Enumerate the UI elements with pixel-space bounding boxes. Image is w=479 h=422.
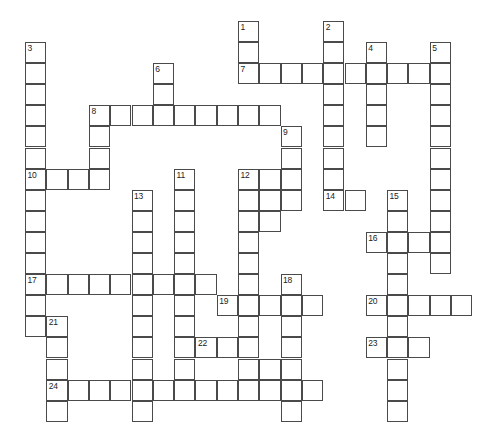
crossword-cell[interactable]	[408, 63, 429, 84]
crossword-cell[interactable]	[281, 401, 302, 422]
crossword-cell[interactable]	[46, 380, 67, 401]
crossword-cell[interactable]	[132, 316, 153, 337]
crossword-cell[interactable]	[281, 316, 302, 337]
crossword-cell[interactable]	[387, 316, 408, 337]
crossword-cell[interactable]	[25, 105, 46, 126]
crossword-cell[interactable]	[153, 84, 174, 105]
crossword-cell[interactable]	[153, 380, 174, 401]
crossword-cell[interactable]	[259, 380, 280, 401]
crossword-cell[interactable]	[153, 274, 174, 295]
crossword-cell[interactable]	[259, 211, 280, 232]
crossword-cell[interactable]	[430, 169, 451, 190]
crossword-cell[interactable]	[46, 169, 67, 190]
crossword-cell[interactable]	[46, 359, 67, 380]
crossword-cell[interactable]	[25, 63, 46, 84]
crossword-cell[interactable]	[25, 295, 46, 316]
crossword-cell[interactable]	[451, 295, 472, 316]
crossword-cell[interactable]	[238, 274, 259, 295]
crossword-cell[interactable]	[174, 105, 195, 126]
crossword-cell[interactable]	[174, 253, 195, 274]
crossword-cell[interactable]	[281, 359, 302, 380]
crossword-grid[interactable]: 123456789101112131415161718192021222324	[0, 0, 479, 422]
crossword-cell[interactable]	[408, 295, 429, 316]
crossword-cell[interactable]	[238, 359, 259, 380]
crossword-cell[interactable]	[238, 63, 259, 84]
crossword-cell[interactable]	[302, 63, 323, 84]
crossword-cell[interactable]	[132, 359, 153, 380]
crossword-cell[interactable]	[366, 63, 387, 84]
crossword-cell[interactable]	[281, 274, 302, 295]
crossword-cell[interactable]	[323, 21, 344, 42]
crossword-cell[interactable]	[68, 169, 89, 190]
crossword-cell[interactable]	[195, 105, 216, 126]
crossword-cell[interactable]	[46, 337, 67, 358]
crossword-cell[interactable]	[387, 380, 408, 401]
crossword-cell[interactable]	[174, 337, 195, 358]
crossword-cell[interactable]	[430, 42, 451, 63]
crossword-cell[interactable]	[281, 337, 302, 358]
crossword-cell[interactable]	[387, 211, 408, 232]
crossword-cell[interactable]	[387, 190, 408, 211]
crossword-cell[interactable]	[323, 105, 344, 126]
crossword-cell[interactable]	[430, 232, 451, 253]
crossword-cell[interactable]	[132, 211, 153, 232]
crossword-cell[interactable]	[387, 63, 408, 84]
crossword-cell[interactable]	[281, 63, 302, 84]
crossword-cell[interactable]	[25, 316, 46, 337]
crossword-cell[interactable]	[238, 21, 259, 42]
crossword-cell[interactable]	[132, 401, 153, 422]
crossword-cell[interactable]	[430, 63, 451, 84]
crossword-cell[interactable]	[89, 148, 110, 169]
crossword-cell[interactable]	[323, 169, 344, 190]
crossword-cell[interactable]	[366, 232, 387, 253]
crossword-cell[interactable]	[25, 190, 46, 211]
crossword-cell[interactable]	[132, 337, 153, 358]
crossword-cell[interactable]	[110, 380, 131, 401]
crossword-cell[interactable]	[302, 380, 323, 401]
crossword-cell[interactable]	[68, 274, 89, 295]
crossword-cell[interactable]	[366, 42, 387, 63]
crossword-cell[interactable]	[323, 84, 344, 105]
crossword-cell[interactable]	[46, 274, 67, 295]
crossword-cell[interactable]	[174, 316, 195, 337]
crossword-cell[interactable]	[25, 148, 46, 169]
crossword-cell[interactable]	[259, 63, 280, 84]
crossword-cell[interactable]	[366, 126, 387, 147]
crossword-cell[interactable]	[110, 105, 131, 126]
crossword-cell[interactable]	[281, 148, 302, 169]
crossword-cell[interactable]	[153, 105, 174, 126]
crossword-cell[interactable]	[25, 42, 46, 63]
crossword-cell[interactable]	[153, 63, 174, 84]
crossword-cell[interactable]	[430, 105, 451, 126]
crossword-cell[interactable]	[408, 337, 429, 358]
crossword-cell[interactable]	[174, 211, 195, 232]
crossword-cell[interactable]	[323, 148, 344, 169]
crossword-cell[interactable]	[132, 274, 153, 295]
crossword-cell[interactable]	[217, 337, 238, 358]
crossword-cell[interactable]	[25, 84, 46, 105]
crossword-cell[interactable]	[366, 105, 387, 126]
crossword-cell[interactable]	[259, 359, 280, 380]
crossword-cell[interactable]	[174, 190, 195, 211]
crossword-cell[interactable]	[323, 126, 344, 147]
crossword-cell[interactable]	[174, 169, 195, 190]
crossword-cell[interactable]	[366, 295, 387, 316]
crossword-cell[interactable]	[25, 253, 46, 274]
crossword-cell[interactable]	[174, 380, 195, 401]
crossword-cell[interactable]	[387, 232, 408, 253]
crossword-cell[interactable]	[195, 380, 216, 401]
crossword-cell[interactable]	[366, 84, 387, 105]
crossword-cell[interactable]	[46, 401, 67, 422]
crossword-cell[interactable]	[89, 105, 110, 126]
crossword-cell[interactable]	[174, 359, 195, 380]
crossword-cell[interactable]	[259, 190, 280, 211]
crossword-cell[interactable]	[430, 211, 451, 232]
crossword-cell[interactable]	[238, 105, 259, 126]
crossword-cell[interactable]	[259, 105, 280, 126]
crossword-cell[interactable]	[132, 295, 153, 316]
crossword-cell[interactable]	[238, 316, 259, 337]
crossword-cell[interactable]	[323, 63, 344, 84]
crossword-cell[interactable]	[387, 401, 408, 422]
crossword-cell[interactable]	[430, 84, 451, 105]
crossword-cell[interactable]	[195, 337, 216, 358]
